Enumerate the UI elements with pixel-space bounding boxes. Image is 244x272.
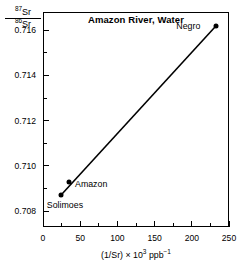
- data-point-solimoes[interactable]: [58, 193, 63, 198]
- x-axis-label-suffix: ppb: [146, 250, 163, 260]
- x-axis-label-prefix: (1/Sr) × 10: [101, 250, 143, 260]
- data-point-negro[interactable]: [214, 23, 219, 28]
- data-point-label-solimoes: Solimoes: [47, 200, 83, 210]
- mixing-line: [61, 26, 216, 196]
- data-point-label-amazon: Amazon: [75, 179, 107, 189]
- data-point-label-negro: Negro: [176, 21, 200, 31]
- mixing-line-svg: [0, 0, 244, 272]
- data-layer: SolimoesAmazonNegro: [0, 0, 244, 272]
- data-point-amazon[interactable]: [67, 179, 72, 184]
- x-axis-suffix-exponent: −1: [164, 248, 171, 255]
- x-axis-label: (1/Sr) × 103 ppb−1: [43, 250, 229, 260]
- chart-figure: Amazon River, Water 87Sr 86Sr 0.7080.710…: [0, 0, 244, 272]
